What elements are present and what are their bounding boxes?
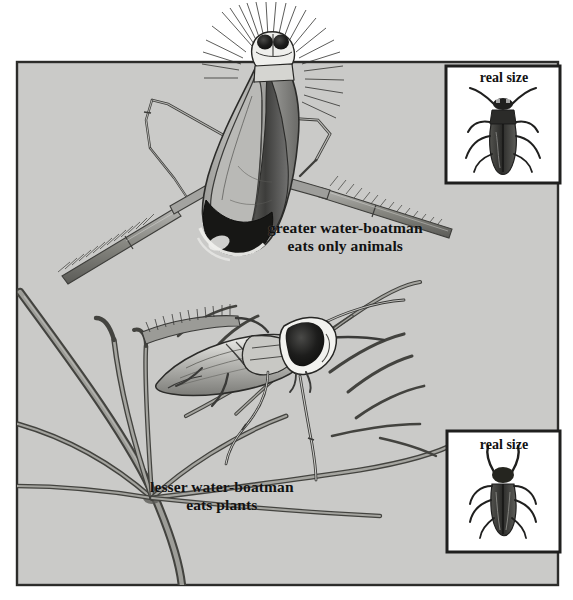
greater-eye-left xyxy=(257,35,273,50)
caption-greater-line2: eats only animals xyxy=(268,237,423,255)
greater-eye-right xyxy=(273,35,289,50)
caption-lesser-line2: eats plants xyxy=(150,496,294,514)
inset-bottom-real-size-label: real size xyxy=(448,437,560,453)
caption-lesser-water-boatman: lesser water-boatman eats plants xyxy=(150,478,294,515)
illustration-plate: greater water-boatman eats only animals … xyxy=(0,0,573,600)
caption-lesser-line1: lesser water-boatman xyxy=(150,478,294,496)
caption-greater-water-boatman: greater water-boatman eats only animals xyxy=(268,219,423,256)
inset-top-real-size-label: real size xyxy=(448,70,560,86)
greater-head xyxy=(252,32,295,82)
caption-greater-line1: greater water-boatman xyxy=(268,219,423,237)
